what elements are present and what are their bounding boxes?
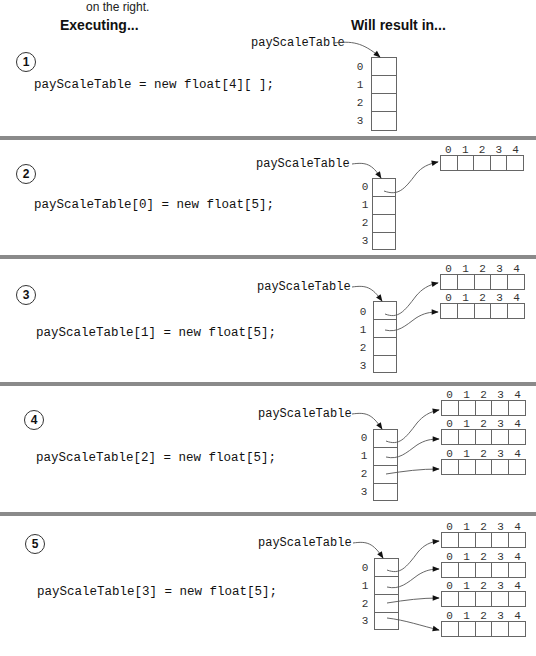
step-3-variable-label: payScaleTable bbox=[257, 280, 351, 294]
separator-2 bbox=[0, 255, 536, 259]
outer-cell-0 bbox=[374, 430, 397, 448]
variable-arrow-icon bbox=[353, 542, 383, 558]
separator-3 bbox=[0, 382, 536, 386]
step-5-index-3: 3 bbox=[360, 615, 370, 627]
step-4-variable-label: payScaleTable bbox=[258, 407, 352, 421]
step-5-code: payScaleTable[3] = new float[5]; bbox=[37, 585, 277, 599]
step-5-index-0: 0 bbox=[360, 562, 370, 574]
step-5-row-3-array bbox=[441, 621, 526, 637]
step-5-row-2-array bbox=[441, 591, 526, 607]
outer-cell-3 bbox=[375, 613, 398, 631]
separator-4 bbox=[0, 512, 536, 516]
step-number-4: 4 bbox=[24, 410, 44, 430]
step-5-row-0-array bbox=[441, 532, 526, 548]
step-number-3: 3 bbox=[16, 285, 36, 305]
step-2-index-2: 2 bbox=[360, 217, 370, 229]
step-1-code: payScaleTable = new float[4][ ]; bbox=[34, 78, 274, 92]
step-1-index-3: 3 bbox=[355, 115, 365, 127]
step-4-outer-array bbox=[373, 429, 398, 501]
outer-cell-2 bbox=[374, 466, 397, 484]
outer-cell-3 bbox=[374, 484, 397, 502]
step-5-row-1-array bbox=[441, 562, 526, 578]
step-number-2: 2 bbox=[16, 164, 36, 184]
outer-cell-3 bbox=[372, 112, 396, 130]
step-4-index-0: 0 bbox=[359, 432, 369, 444]
step-4-row-2-array bbox=[441, 459, 526, 475]
step-4-index-1: 1 bbox=[359, 450, 369, 462]
step-number-5: 5 bbox=[25, 534, 45, 554]
outer-cell-3 bbox=[374, 356, 396, 374]
step-2-variable-label: payScaleTable bbox=[256, 157, 350, 171]
step-3-row-1-array bbox=[440, 303, 525, 319]
outer-cell-1 bbox=[374, 448, 397, 466]
separator-1 bbox=[0, 136, 536, 140]
outer-cell-0 bbox=[372, 58, 396, 76]
executing-header: Executing... bbox=[60, 17, 139, 33]
step-1-outer-array bbox=[371, 57, 397, 131]
outer-cell-2 bbox=[374, 338, 396, 356]
step-1-index-0: 0 bbox=[355, 61, 365, 73]
step-3-index-0: 0 bbox=[358, 306, 368, 318]
step-2-index-3: 3 bbox=[360, 235, 370, 247]
outer-cell-0 bbox=[373, 179, 395, 197]
outer-cell-1 bbox=[374, 320, 396, 338]
result-header: Will result in... bbox=[351, 17, 446, 33]
step-5-index-1: 1 bbox=[360, 580, 370, 592]
outer-cell-0 bbox=[374, 302, 396, 320]
outer-cell-2 bbox=[375, 595, 398, 613]
step-1-variable-label: payScaleTable bbox=[251, 36, 345, 50]
outer-cell-1 bbox=[373, 197, 395, 215]
variable-arrow-icon bbox=[352, 163, 381, 178]
step-3-index-2: 2 bbox=[358, 342, 368, 354]
step-4-row-0-array bbox=[441, 400, 526, 416]
step-number-1: 1 bbox=[16, 52, 36, 72]
step-3-outer-array bbox=[373, 301, 397, 373]
step-1-index-1: 1 bbox=[355, 79, 365, 91]
variable-arrow-icon bbox=[352, 286, 382, 301]
step-3-row-0-array bbox=[440, 274, 525, 290]
intro-text: on the right. bbox=[86, 0, 149, 14]
step-4-row-1-array bbox=[441, 429, 526, 445]
step-3-index-3: 3 bbox=[358, 360, 368, 372]
step-2-outer-array bbox=[372, 178, 396, 250]
step-1-index-2: 2 bbox=[355, 97, 365, 109]
step-4-index-3: 3 bbox=[359, 486, 369, 498]
outer-cell-1 bbox=[372, 76, 396, 94]
outer-cell-0 bbox=[375, 559, 398, 577]
step-2-index-1: 1 bbox=[360, 199, 370, 211]
outer-cell-1 bbox=[375, 577, 398, 595]
step-5-variable-label: payScaleTable bbox=[258, 536, 352, 550]
step-4-code: payScaleTable[2] = new float[5]; bbox=[36, 451, 276, 465]
step-2-code: payScaleTable[0] = new float[5]; bbox=[34, 198, 274, 212]
step-3-code: payScaleTable[1] = new float[5]; bbox=[36, 326, 276, 340]
outer-cell-3 bbox=[373, 233, 395, 251]
step-5-index-2: 2 bbox=[360, 598, 370, 610]
step-3-index-1: 1 bbox=[358, 324, 368, 336]
variable-arrow-icon bbox=[352, 413, 382, 429]
step-2-index-0: 0 bbox=[360, 181, 370, 193]
step-4-index-2: 2 bbox=[359, 468, 369, 480]
step-5-outer-array bbox=[374, 558, 399, 630]
outer-cell-2 bbox=[373, 215, 395, 233]
step-2-row-0-array bbox=[440, 155, 524, 171]
outer-cell-2 bbox=[372, 94, 396, 112]
